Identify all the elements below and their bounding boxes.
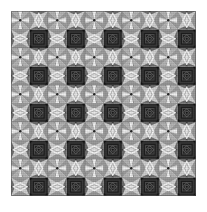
pattern-block (11, 11, 196, 196)
tiling-svg (11, 11, 196, 196)
pattern-figure: Greyscale geometric tiling pattern Squar… (0, 0, 207, 212)
